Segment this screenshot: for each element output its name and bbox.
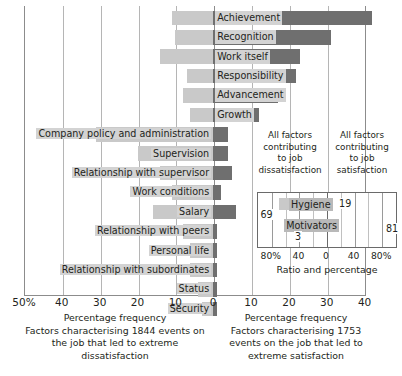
inset-gridline-80 — [382, 193, 383, 247]
bar-row: Advancement — [0, 86, 402, 105]
bar-label: Work conditions — [0, 185, 211, 199]
bar-satisfaction — [213, 166, 232, 181]
axis-tick-label: 30 — [320, 296, 333, 308]
inset-value-69: 69 — [259, 209, 273, 220]
inset-axis-label: Ratio and percentage — [256, 264, 398, 275]
bar-label: Growth — [215, 108, 254, 122]
bar-label: Relationship with peers — [0, 224, 211, 238]
bar-satisfaction — [213, 185, 221, 200]
bar-dissatisfaction — [187, 69, 213, 84]
bar-satisfaction — [213, 224, 217, 239]
inset-ratio-chart: All factorscontributingto jobdissatisfac… — [256, 130, 398, 282]
inset-value-81: 81 — [385, 223, 399, 234]
inset-plot-area: Hygiene6919Motivators381 — [257, 192, 397, 248]
bar-label: Recognition — [215, 30, 276, 44]
inset-heading-line: contributing — [256, 142, 324, 154]
inset-heading-line: All factors — [328, 130, 396, 142]
inset-axis-tick-label: 40 — [348, 250, 360, 261]
bar-dissatisfaction — [190, 108, 213, 123]
axis-tick-label: 10 — [244, 296, 257, 308]
caption-left-line1: Factors characterising 1844 events on — [20, 325, 210, 338]
caption-right-line1: Factors characterising 1753 — [210, 325, 382, 338]
bar-row: Responsibility — [0, 67, 402, 86]
bar-label: Work itself — [215, 50, 270, 64]
bar-label: Company policy and administration — [0, 127, 211, 141]
herzberg-two-factor-chart: AchievementRecognitionWork itselfRespons… — [0, 0, 402, 376]
inset-value-3: 3 — [294, 231, 302, 242]
inset-label-hygiene: Hygiene — [289, 198, 333, 211]
axis-tick-label: 20 — [282, 296, 295, 308]
inset-axis-tick-label: 40 — [293, 250, 305, 261]
inset-heading-line: to job — [256, 153, 324, 165]
bar-satisfaction — [213, 205, 236, 220]
axis-tick-label: 40 — [358, 296, 371, 308]
caption-left-line2: the job that led to extreme — [20, 337, 210, 350]
bar-satisfaction — [213, 127, 228, 142]
caption-left-heading: Percentage frequency — [20, 312, 210, 325]
caption-left-line3: dissatisfaction — [20, 350, 210, 363]
inset-gridline-40 — [355, 193, 356, 247]
bar-label: Personal life — [0, 244, 211, 258]
x-axis-ticks: 50%40302010010203040 — [0, 296, 402, 312]
inset-value-19: 19 — [338, 198, 352, 209]
bar-label: Status — [0, 282, 211, 296]
bar-label: Relationship with subordinates — [0, 263, 211, 277]
caption-satisfaction: Percentage frequency Factors characteris… — [210, 312, 382, 362]
inset-heading-satisfaction: All factorscontributingto jobsatisfactio… — [328, 130, 396, 176]
caption-dissatisfaction: Percentage frequency Factors characteris… — [20, 312, 210, 362]
bar-label: Achievement — [215, 11, 282, 25]
caption-right-line3: extreme satisfaction — [210, 350, 382, 363]
bar-satisfaction — [213, 243, 217, 258]
axis-tick-label: 50% — [12, 296, 35, 308]
inset-heading-dissatisfaction: All factorscontributingto jobdissatisfac… — [256, 130, 324, 176]
caption-right-line2: events on the job that led to — [210, 337, 382, 350]
inset-axis-tick-label: 80% — [371, 250, 391, 261]
inset-gridline-minor — [368, 193, 369, 247]
bar-label: Responsibility — [215, 69, 285, 83]
axis-tick-label: 10 — [169, 296, 182, 308]
inset-heading-line: dissatisfaction — [256, 165, 324, 177]
inset-heading-line: satisfaction — [328, 165, 396, 177]
inset-heading-line: to job — [328, 153, 396, 165]
bar-row: Work itself — [0, 47, 402, 66]
bar-row: Achievement — [0, 9, 402, 28]
axis-tick-label: 30 — [93, 296, 106, 308]
bar-row: Growth — [0, 106, 402, 125]
bar-label: Relationship with supervisor — [0, 166, 211, 180]
inset-heading-line: contributing — [328, 142, 396, 154]
bar-label: Advancement — [215, 88, 285, 102]
bar-dissatisfaction — [183, 88, 213, 103]
bar-label: Supervision — [0, 147, 211, 161]
axis-tick-label: 0 — [210, 296, 217, 308]
bar-dissatisfaction — [175, 30, 213, 45]
bar-satisfaction — [213, 263, 217, 278]
axis-tick-label: 40 — [55, 296, 68, 308]
bar-row: Recognition — [0, 28, 402, 47]
bar-dissatisfaction — [172, 11, 214, 26]
inset-heading-line: All factors — [256, 130, 324, 142]
inset-gridline-80 — [272, 193, 273, 247]
bar-satisfaction — [213, 146, 228, 161]
inset-headings: All factorscontributingto jobdissatisfac… — [256, 130, 398, 188]
caption-right-heading: Percentage frequency — [210, 312, 382, 325]
axis-tick-label: 20 — [131, 296, 144, 308]
bar-label: Salary — [0, 205, 211, 219]
inset-axis-ticks: 80%4004080% — [256, 250, 398, 264]
bar-satisfaction — [213, 282, 217, 297]
inset-axis-tick-label: 0 — [323, 250, 329, 261]
inset-label-motivators: Motivators — [284, 219, 339, 232]
bar-dissatisfaction — [160, 49, 213, 64]
inset-axis-tick-label: 80% — [261, 250, 281, 261]
